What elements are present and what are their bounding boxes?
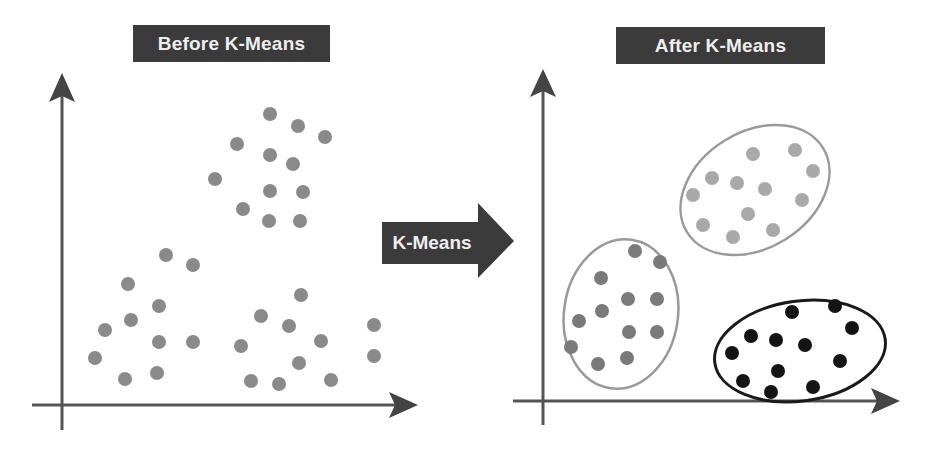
data-point [88,351,102,365]
data-point [236,202,250,216]
data-point [771,364,785,378]
data-point [828,299,842,313]
data-point [744,329,758,343]
data-point [367,349,381,363]
data-point [622,325,636,339]
data-point [324,373,338,387]
data-point [741,207,755,221]
data-point [152,299,166,313]
data-point [595,304,609,318]
kmeans-arrow-label: K-Means [382,222,482,264]
data-point [244,374,258,388]
data-point [314,334,328,348]
before-axes [32,73,418,430]
data-point [746,147,760,161]
data-point [621,292,635,306]
data-point [591,357,605,371]
cluster-boundary [554,232,688,396]
data-point [845,321,859,335]
data-point [124,313,138,327]
before-scatter-points [88,107,381,391]
data-point [296,185,310,199]
data-point [594,271,608,285]
data-point [758,182,772,196]
data-point [653,255,667,269]
data-point [795,193,809,207]
data-point [292,356,306,370]
data-point [118,372,132,386]
data-point [272,377,286,391]
data-point [159,248,173,262]
data-point [263,184,277,198]
data-point [121,277,135,291]
after-clusters [554,98,892,412]
data-point [806,380,820,394]
data-point [620,351,634,365]
cluster-1 [656,98,853,281]
data-point [766,223,780,237]
data-point [208,172,222,186]
data-point [833,354,847,368]
data-point [230,137,244,151]
data-point [282,319,296,333]
data-point [726,230,740,244]
data-point [367,318,381,332]
data-point [736,374,750,388]
data-point [730,176,744,190]
data-point [785,305,799,319]
data-point [186,335,200,349]
data-point [798,338,812,352]
data-point [291,119,305,133]
data-point [293,214,307,228]
data-point [262,214,276,228]
data-point [294,288,308,302]
data-point [696,218,710,232]
data-point [263,148,277,162]
data-point [150,366,164,380]
data-point [564,340,578,354]
after-kmeans-title: After K-Means [616,27,825,64]
data-point [152,335,166,349]
data-point [725,346,739,360]
data-point [650,325,664,339]
data-point [650,292,664,306]
data-point [572,314,586,328]
data-point [234,339,248,353]
data-point [686,188,700,202]
data-point [254,309,268,323]
before-kmeans-title: Before K-Means [133,25,330,62]
data-point [764,385,778,399]
cluster-boundary [656,98,853,281]
cluster-2 [554,232,688,396]
cluster-3 [708,290,892,413]
data-point [806,164,820,178]
data-point [318,130,332,144]
data-point [98,323,112,337]
after-axes [513,69,900,425]
data-point [286,157,300,171]
data-point [186,258,200,272]
data-point [705,171,719,185]
data-point [788,143,802,157]
data-point [628,244,642,258]
data-point [263,107,277,121]
data-point [769,333,783,347]
